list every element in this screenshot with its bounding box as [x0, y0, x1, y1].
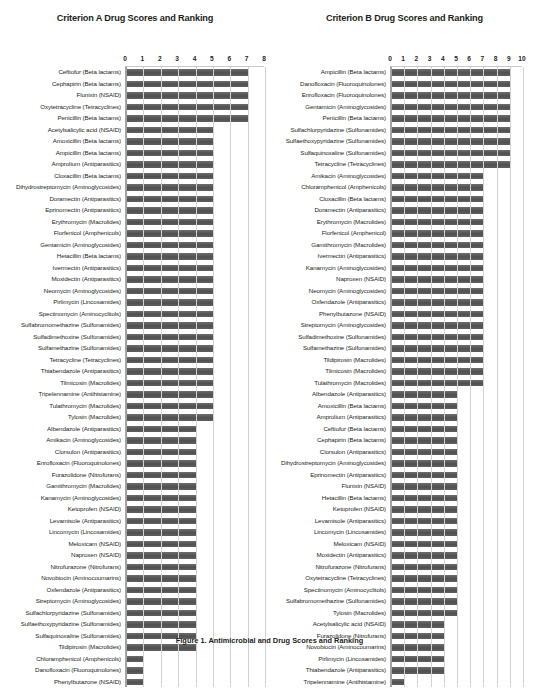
category-label: Sulfadimethoxine (Sulfonamides) — [298, 331, 386, 343]
bar — [126, 656, 143, 662]
gridline — [444, 67, 445, 687]
x-tick-label: 7 — [481, 53, 485, 64]
category-label: Neomycin (Aminoglycosides) — [309, 285, 386, 297]
category-label: Thiabendazole (Antiparasitics) — [41, 365, 121, 377]
category-label: Tylosin (Macrolides) — [68, 411, 121, 423]
category-label: Nitrofurazone (Nitrofurans) — [315, 561, 386, 573]
category-label: Danofloxacin (Fluoroquinolones) — [300, 78, 386, 90]
x-axis-ticks-criterion-b: 012345678910 — [270, 53, 539, 64]
plot-area-criterion-a — [125, 66, 264, 687]
x-tick-label: 9 — [507, 53, 511, 64]
gridline — [470, 67, 471, 687]
chart-panel-criterion-a: Criterion A Drug Scores and Ranking Ceft… — [0, 0, 270, 654]
bar — [126, 414, 213, 420]
bar — [126, 322, 213, 328]
category-label: Sulfaquinoxaline (Sulfonamides) — [300, 147, 386, 159]
x-tick-label: 2 — [158, 53, 162, 64]
bar — [391, 679, 404, 685]
category-label: Eprinomectin (Antiparasitics) — [310, 469, 386, 481]
category-label: Ampicillin (Beta lactams) — [321, 66, 386, 78]
bar — [126, 253, 213, 259]
category-label: Tripelennamine (Antihistamine) — [39, 388, 121, 400]
category-label: Tetracycline (Tetracyclines) — [315, 158, 386, 170]
category-label: Pirlimycin (Lincosamides) — [318, 653, 386, 665]
category-label: Streptomycin (Aminoglycosides) — [36, 595, 121, 607]
bar — [126, 368, 213, 374]
category-label: Tetracycline (Tetracyclines) — [50, 354, 121, 366]
bar — [126, 334, 213, 340]
category-label: Levamisole (Antiparasitics) — [50, 515, 121, 527]
bar — [126, 138, 213, 144]
gridline — [431, 67, 432, 687]
category-label: Lincomycin (Lincosamides) — [49, 526, 121, 538]
chart-title-criterion-a: Criterion A Drug Scores and Ranking — [0, 0, 270, 24]
category-label: Sulfabromomethazine (Sulfonamides) — [286, 595, 386, 607]
category-label: Enrofloxacin (Fluoroquinolones) — [302, 89, 386, 101]
x-tick-label: 10 — [518, 53, 525, 64]
category-label: Dihydrostreptomycin (Aminoglycosides) — [281, 457, 386, 469]
category-label: Danofloxacin (Fluoroquinolones) — [35, 664, 121, 676]
category-label: Spectinomycin (Aminocyclitols) — [304, 584, 386, 596]
gridline — [523, 67, 524, 687]
bar — [126, 196, 213, 202]
gridline — [510, 67, 511, 687]
plot-area-criterion-b — [390, 66, 522, 687]
category-label: Sulfamethazine (Sulfonamides) — [303, 342, 386, 354]
bar — [391, 541, 457, 547]
category-label: Furazolidone (Nitrofurans) — [52, 469, 121, 481]
bar — [126, 667, 143, 673]
x-tick-label: 2 — [415, 53, 419, 64]
bar — [126, 679, 143, 685]
category-label: Nitrofurazone (Nitrofurans) — [50, 561, 121, 573]
bar — [126, 391, 213, 397]
gridline — [483, 67, 484, 687]
bar — [126, 150, 213, 156]
gridline — [178, 67, 179, 687]
category-label: Enrofloxacin (Fluoroquinolones) — [37, 457, 121, 469]
figure-caption: Figure 1. Antimicrobial and Drug Scores … — [0, 628, 539, 654]
bar — [126, 380, 213, 386]
category-label: Ceftiofur (Beta lactams) — [323, 423, 386, 435]
category-label: Streptomycin (Aminoglycosides) — [301, 319, 386, 331]
category-label: Meloxicam (NSAID) — [68, 538, 121, 550]
bar — [391, 150, 510, 156]
x-tick-label: 1 — [141, 53, 145, 64]
bar — [391, 552, 457, 558]
category-label: Kanamycin (Aminoglycosides) — [306, 262, 386, 274]
bar — [126, 127, 213, 133]
bar — [391, 437, 457, 443]
gridline — [265, 67, 266, 687]
gridline — [497, 67, 498, 687]
bar — [391, 564, 457, 570]
x-tick-label: 0 — [123, 53, 127, 64]
category-label: Pirlimycin (Lincosamides) — [53, 296, 121, 308]
category-label: Amikacin (Aminoglycosides) — [311, 170, 386, 182]
bar — [126, 288, 213, 294]
bar — [126, 357, 213, 363]
x-tick-label: 3 — [428, 53, 432, 64]
category-label: Amikacin (Aminoglycosides) — [46, 434, 121, 446]
category-label: Ampicillin (Beta lactams) — [56, 147, 121, 159]
category-label: Phenylbutazone (NSAID) — [319, 308, 386, 320]
category-label: Tylosin (Macrolides) — [333, 607, 386, 619]
bar — [126, 242, 213, 248]
gridline — [161, 67, 162, 687]
category-label: Eprinomectin (Antiparasitics) — [45, 204, 121, 216]
category-label: Hetacillin (Beta lactams) — [322, 492, 386, 504]
category-label: Sulfamethazine (Sulfonamides) — [38, 342, 121, 354]
bar — [391, 518, 457, 524]
category-label: Tripelennamine (Antihistamine) — [304, 676, 386, 688]
category-label: Neomycin (Aminoglycosides) — [44, 285, 121, 297]
bar — [391, 426, 457, 432]
category-label: Gentamicin (Aminoglycosides) — [40, 239, 121, 251]
category-label: Oxfendazole (Antiparasitics) — [311, 296, 386, 308]
bar — [391, 598, 457, 604]
x-tick-label: 8 — [494, 53, 498, 64]
category-labels-criterion-b: Ampicillin (Beta lactams)Danofloxacin (F… — [272, 66, 386, 687]
gridline — [213, 67, 214, 687]
bar — [391, 69, 510, 75]
category-label: Florfenicol (Amphenicols) — [54, 227, 121, 239]
category-label: Cloxacillin (Beta lactams) — [319, 193, 386, 205]
category-label: Tulathromycin (Macrolides) — [49, 400, 121, 412]
